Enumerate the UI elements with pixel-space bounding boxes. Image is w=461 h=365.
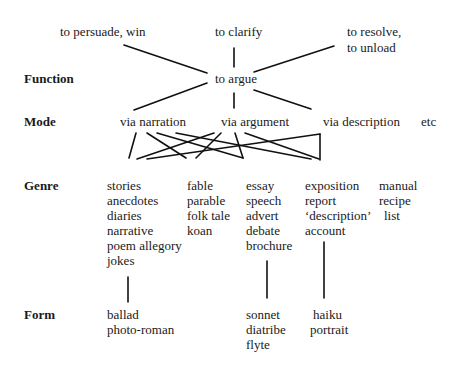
edge-argue-description <box>254 90 311 109</box>
level-label-form: Form <box>24 307 55 322</box>
genre-item: essay <box>246 178 274 193</box>
genre-item: report <box>305 193 336 208</box>
mode-narration: via narration <box>120 114 186 129</box>
purpose-resolve-line2: to unload <box>347 40 396 55</box>
form-item: sonnet <box>246 307 280 322</box>
level-label-mode: Mode <box>24 114 56 129</box>
genre-item: narrative <box>107 223 153 238</box>
genre-item: account <box>305 223 345 238</box>
purpose-resolve-line1: to resolve, <box>347 24 401 39</box>
genre-item: brochure <box>246 238 292 253</box>
function-node-argue: to argue <box>215 71 257 86</box>
genre-item: stories <box>107 178 141 193</box>
mode-argument: via argument <box>221 114 289 129</box>
edge-narration-exposition <box>176 133 311 159</box>
genre-item: exposition <box>305 178 359 193</box>
form-item: portrait <box>310 322 348 337</box>
genre-item: folk tale <box>187 208 230 223</box>
genre-item: anecdotes <box>107 193 158 208</box>
edge-persuade-argue <box>124 45 207 73</box>
edge-argue-narration <box>134 83 207 110</box>
genre-item: debate <box>246 223 280 238</box>
form-item: haiku <box>313 307 342 322</box>
genre-item: koan <box>187 223 212 238</box>
purpose-clarify: to clarify <box>215 24 262 39</box>
genre-item: parable <box>187 193 225 208</box>
level-label-genre: Genre <box>24 178 58 193</box>
form-item: flyte <box>246 337 270 352</box>
purpose-persuade: to persuade, win <box>60 24 146 39</box>
genre-item: advert <box>246 208 278 223</box>
genre-item: poem allegory <box>107 238 182 253</box>
genre-item: jokes <box>107 253 134 268</box>
level-label-function: Function <box>24 71 74 86</box>
form-item: ballad <box>107 307 139 322</box>
genre-item: ‘description’ <box>305 208 371 223</box>
genre-item: recipe <box>379 193 411 208</box>
genre-item: fable <box>187 178 213 193</box>
edge-argument-exposition <box>245 133 319 159</box>
mode-etc: etc <box>421 114 436 129</box>
edge-narration-stories <box>129 133 136 158</box>
genre-item: speech <box>246 193 281 208</box>
genre-item: diaries <box>107 208 142 223</box>
genre-item: manual <box>379 178 417 193</box>
genre-item: list <box>384 208 400 223</box>
form-item: photo-roman <box>107 322 174 337</box>
edge-resolve-argue <box>254 46 334 72</box>
mode-description: via description <box>323 114 400 129</box>
form-item: diatribe <box>246 322 286 337</box>
